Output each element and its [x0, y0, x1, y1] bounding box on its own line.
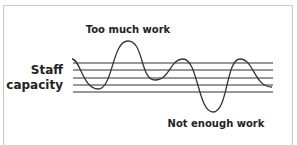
not-enough-work-label: Not enough work [168, 118, 265, 129]
staff-label: Staff [31, 63, 63, 77]
workload-curve [72, 41, 272, 112]
capacity-label: capacity [6, 78, 63, 92]
workload-diagram: Too much work Staff capacity Not enough … [0, 0, 297, 145]
too-much-work-label: Too much work [86, 24, 171, 35]
